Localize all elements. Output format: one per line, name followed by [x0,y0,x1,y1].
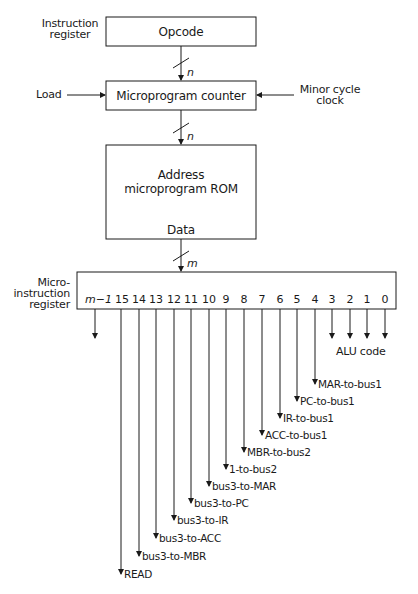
bit-11: 11 [181,294,201,306]
signal-bus3-to-pc: bus3-to-PC [194,497,248,509]
bit-8: 8 [234,294,254,306]
signal-bus3-to-ir: bus3-to-IR [177,514,228,526]
rom-data-label: Data [106,224,256,236]
register-label-line3: register [0,299,70,311]
bus-width-n-2: n [187,131,194,143]
bit-m-minus-1: m−1 [85,294,107,306]
opcode-label: Opcode [106,26,256,38]
instruction-register-label-line2: register [38,29,102,41]
signal-bus3-to-mbr: bus3-to-MBR [142,550,206,562]
bit-9: 9 [216,294,236,306]
signal-acc-to-bus1: ACC-to-bus1 [265,429,327,441]
signal-read: READ [124,568,152,580]
signal-mar-to-bus1: MAR-to-bus1 [318,378,382,390]
bus-width-n-1: n [187,67,194,79]
counter-label: Microprogram counter [106,90,256,102]
alu-code-label: ALU code [336,346,386,358]
signal-ir-to-bus1: IR-to-bus1 [283,412,334,424]
bus-width-m: m [187,258,198,270]
load-label: Load [36,89,62,101]
signal-1-to-bus2: 1-to-bus2 [229,463,277,475]
rom-label-line1: Address [106,169,256,181]
minor-cycle-clock-label-line2: clock [296,95,364,107]
bit-5: 5 [287,294,307,306]
bit-3: 3 [322,294,342,306]
signal-bus3-to-mar: bus3-to-MAR [212,480,276,492]
bit-13: 13 [146,294,166,306]
rom-label-line2: microprogram ROM [106,183,256,195]
bit-1: 1 [357,294,377,306]
bit-0: 0 [375,294,395,306]
signal-mbr-to-bus2: MBR-to-bus2 [247,446,311,458]
bit-7: 7 [252,294,272,306]
signal-bus3-to-acc: bus3-to-ACC [159,532,221,544]
signal-pc-to-bus1: PC-to-bus1 [300,395,354,407]
